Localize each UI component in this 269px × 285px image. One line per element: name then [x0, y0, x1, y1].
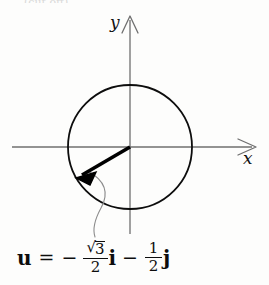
fraction-numerator: 1: [146, 241, 162, 257]
vector-diagram-figure: (cut off) y x u = − √3 2: [0, 0, 269, 285]
x-axis-label: x: [243, 150, 253, 167]
vector-u-shaft: [82, 147, 130, 175]
basis-vector-j: j: [163, 248, 170, 268]
vector-symbol-u: u: [17, 248, 32, 268]
fraction-denominator: 2: [88, 259, 104, 275]
leading-minus-sign: −: [61, 248, 77, 267]
fraction-denominator: 2: [146, 258, 162, 274]
vector-equation: u = − √3 2 i − 1 2 j: [17, 240, 170, 275]
middle-minus-sign: −: [122, 248, 138, 267]
radicand-value: 3: [95, 241, 105, 257]
fraction-1-over-2: 1 2: [145, 241, 162, 274]
basis-vector-i: i: [109, 248, 117, 268]
fraction-sqrt3-over-2: √3 2: [83, 240, 107, 275]
radical-group: √3: [86, 240, 104, 257]
fraction-numerator-sqrt3: √3: [83, 240, 107, 258]
equals-sign: =: [39, 248, 55, 267]
y-axis-label: y: [110, 14, 120, 31]
